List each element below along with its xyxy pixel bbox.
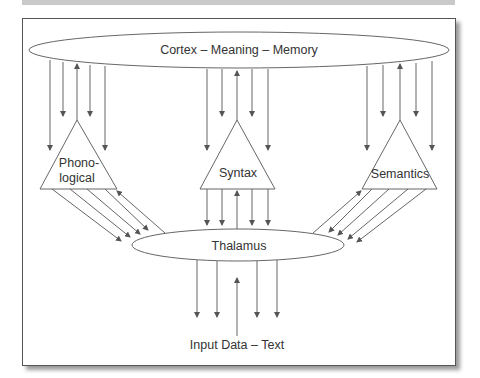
phonological-thalamus-arrows <box>52 189 165 241</box>
diagram-canvas: Cortex – Meaning – Memory Phono- logical… <box>0 0 480 378</box>
phonological-label-line1: Phono- <box>59 156 99 170</box>
syntax-thalamus-arrows <box>207 189 268 229</box>
cortex-label: Cortex – Meaning – Memory <box>160 43 318 57</box>
semantics-thalamus-arrows <box>313 189 426 242</box>
phonological-label-line2: logical <box>59 171 94 185</box>
syntax-label: Syntax <box>219 166 258 180</box>
thalamus-input-arrows <box>197 260 277 336</box>
input-label: Input Data – Text <box>190 338 285 352</box>
thalamus-label: Thalamus <box>212 239 267 253</box>
semantics-label: Semantics <box>371 167 429 181</box>
